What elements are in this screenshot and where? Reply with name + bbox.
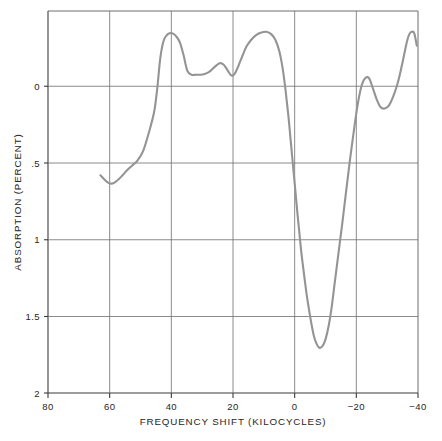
ytick-label-1: 1	[34, 234, 40, 245]
y-tick-marks	[44, 86, 48, 393]
xtick-label-40: 40	[166, 401, 177, 412]
absorption-curve	[100, 32, 416, 348]
xtick-label-60: 60	[104, 401, 115, 412]
xtick-label-minus40: −40	[409, 401, 426, 412]
ytick-label-0point5: .5	[31, 158, 40, 169]
xtick-label-20: 20	[227, 401, 238, 412]
ytick-label-2: 2	[34, 388, 40, 399]
xtick-label-minus20: −20	[348, 401, 365, 412]
chart-canvas: 0 .5 1 1.5 2 80 60 40 20 0 −20 −40 FREQU…	[0, 0, 442, 441]
xtick-label-80: 80	[42, 401, 53, 412]
absorption-spectrum-figure: 0 .5 1 1.5 2 80 60 40 20 0 −20 −40 FREQU…	[0, 0, 442, 441]
y-tick-labels: 0 .5 1 1.5 2	[26, 81, 40, 399]
x-tick-marks	[48, 393, 418, 398]
ytick-label-0: 0	[34, 81, 40, 92]
y-axis-title: ABSORPTION (PERCENT)	[12, 133, 23, 270]
ytick-label-1point5: 1.5	[26, 311, 40, 322]
x-tick-labels: 80 60 40 20 0 −20 −40	[42, 401, 426, 412]
x-axis-title: FREQUENCY SHIFT (KILOCYCLES)	[140, 416, 327, 427]
vertical-gridlines	[110, 11, 357, 393]
xtick-label-0: 0	[292, 401, 298, 412]
